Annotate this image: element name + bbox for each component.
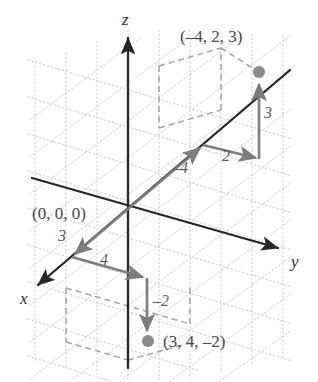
point-upper-dot — [253, 66, 265, 78]
point-upper-label: (–4, 2, 3) — [180, 28, 242, 45]
y-axis-label: y — [291, 253, 299, 270]
step-2-label: 2 — [222, 148, 230, 164]
point-lower-dot — [142, 335, 154, 347]
step-4-label: 4 — [100, 252, 108, 268]
step-neg4-label: –4 — [172, 160, 188, 176]
step-neg2-label: –2 — [153, 293, 169, 309]
step-3-label: 3 — [58, 228, 66, 244]
origin-label: (0, 0, 0) — [32, 205, 86, 222]
figure-canvas: (–4, 2, 3) (3, 4, –2) (0, 0, 0) x y z –4… — [0, 0, 318, 382]
vector-path-lower — [72, 209, 147, 331]
coordinate-diagram-svg — [0, 0, 318, 382]
axes-lines — [32, 38, 290, 368]
x-axis-label: x — [20, 290, 28, 307]
step-3up-label: 3 — [264, 105, 272, 121]
z-axis-label: z — [122, 11, 129, 28]
point-lower-label: (3, 4, –2) — [163, 333, 225, 350]
vector-segment-neg4 — [128, 148, 200, 209]
